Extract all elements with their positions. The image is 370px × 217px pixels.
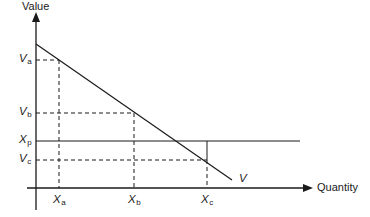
marker-xp: Xp bbox=[19, 134, 32, 148]
marker-vb: Vb bbox=[19, 106, 32, 120]
curve-label-v: V bbox=[239, 173, 247, 184]
y-axis-label: Value bbox=[22, 1, 49, 12]
marker-va: Va bbox=[19, 53, 32, 67]
x-axis-label: Quantity bbox=[317, 182, 358, 193]
y-axis-arrow-icon bbox=[32, 12, 40, 22]
marker-xa: Xa bbox=[53, 194, 66, 208]
x-axis-arrow-icon bbox=[303, 184, 313, 192]
marker-vc: Vc bbox=[19, 153, 31, 167]
marker-xb: Xb bbox=[128, 194, 141, 208]
marker-xc: Xc bbox=[201, 194, 213, 208]
y-axis bbox=[32, 12, 40, 210]
dashed-guides bbox=[36, 60, 207, 188]
diagram-canvas bbox=[0, 0, 370, 217]
x-axis bbox=[27, 184, 313, 192]
